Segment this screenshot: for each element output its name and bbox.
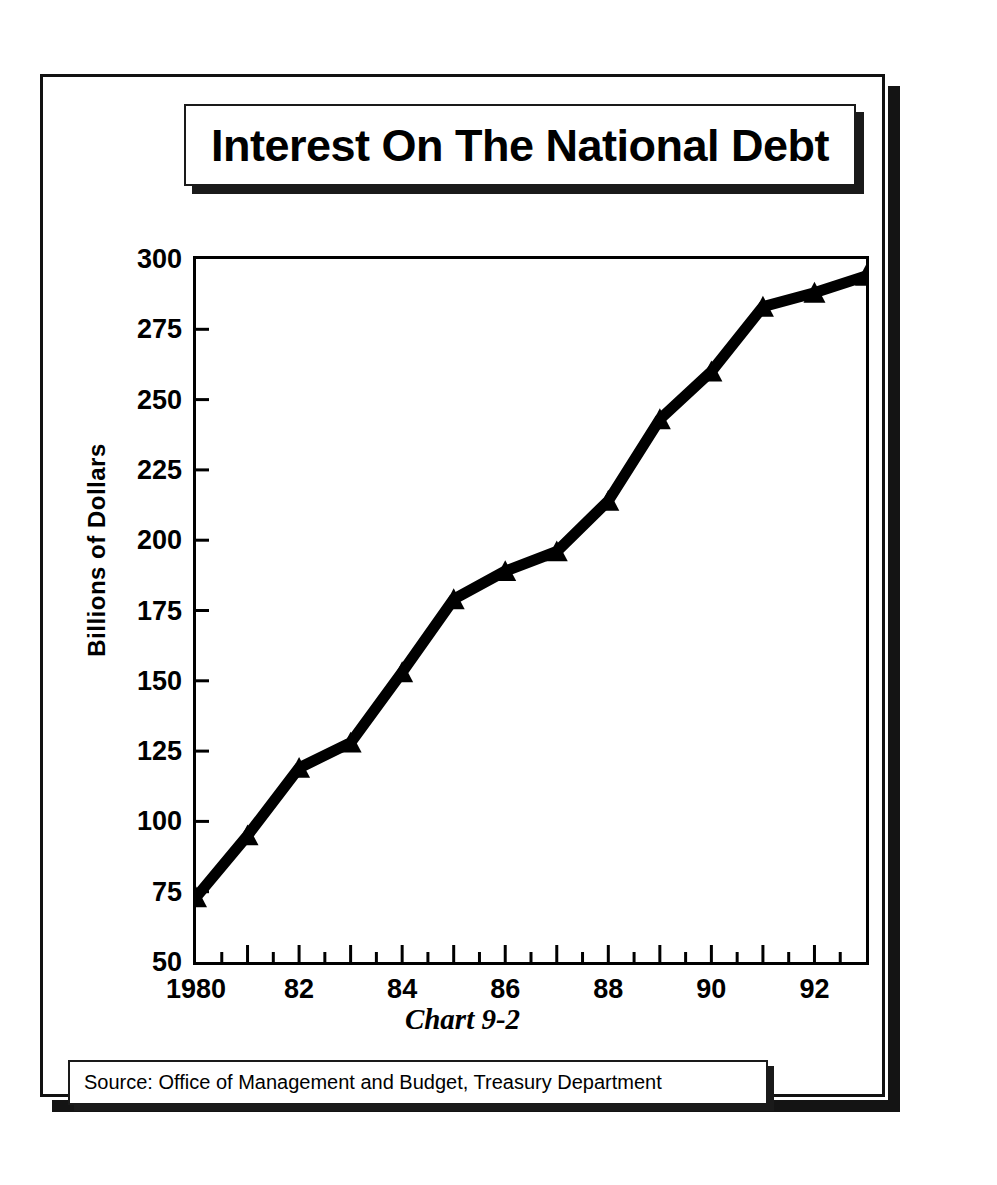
y-axis-tick-label: 100 bbox=[137, 806, 182, 837]
y-axis-tick-label: 300 bbox=[137, 244, 182, 275]
y-axis-tick-label: 200 bbox=[137, 525, 182, 556]
source-text: Source: Office of Management and Budget,… bbox=[70, 1071, 662, 1094]
title-box-shadow-right bbox=[856, 112, 864, 194]
x-axis-tick-label: 1980 bbox=[166, 974, 226, 1005]
chart-region: Billions of Dollars 30027525022520017515… bbox=[60, 236, 880, 1016]
chart-caption: Chart 9-2 bbox=[40, 1003, 885, 1036]
y-axis-tick-label: 150 bbox=[137, 665, 182, 696]
line-chart-svg bbox=[196, 259, 866, 962]
page-title: Interest On The National Debt bbox=[211, 123, 829, 168]
x-axis-tick-label: 82 bbox=[284, 974, 314, 1005]
slide-frame-shadow-right bbox=[888, 86, 900, 1111]
y-axis-tick-labels: 3002752502252001751501251007550 bbox=[90, 236, 182, 976]
plot-area bbox=[193, 256, 869, 965]
y-axis-tick-label: 125 bbox=[137, 736, 182, 767]
x-axis-tick-label: 86 bbox=[490, 974, 520, 1005]
x-axis-tick-label: 88 bbox=[593, 974, 623, 1005]
y-axis-tick-label: 175 bbox=[137, 595, 182, 626]
y-axis-tick-label: 250 bbox=[137, 384, 182, 415]
x-axis-tick-label: 90 bbox=[696, 974, 726, 1005]
y-axis-tick-label: 50 bbox=[152, 947, 182, 978]
source-box-shadow-bottom bbox=[74, 1105, 774, 1111]
y-axis-tick-label: 75 bbox=[152, 876, 182, 907]
x-axis-tick-label: 92 bbox=[799, 974, 829, 1005]
title-box-shadow-bottom bbox=[192, 186, 864, 194]
y-axis-tick-label: 225 bbox=[137, 454, 182, 485]
y-axis-tick-label: 275 bbox=[137, 314, 182, 345]
x-axis-tick-label: 84 bbox=[387, 974, 417, 1005]
data-line bbox=[196, 276, 866, 897]
source-box: Source: Office of Management and Budget,… bbox=[68, 1060, 768, 1105]
title-box: Interest On The National Debt bbox=[184, 104, 856, 186]
